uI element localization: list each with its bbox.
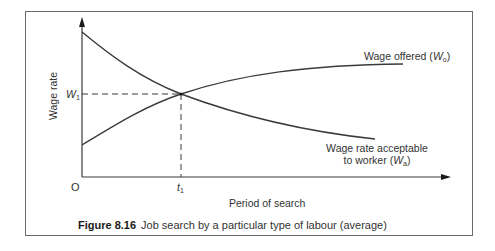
w1-symbol: W [66, 88, 76, 100]
wage-acceptable-symbol: W [393, 154, 403, 166]
chart-plot [0, 0, 495, 251]
w1-subscript: 1 [76, 94, 80, 101]
wage-offered-curve [82, 64, 403, 145]
wage-offered-text: Wage offered ( [364, 50, 433, 62]
intersection-point [179, 92, 182, 95]
figure-caption: Figure 8.16Job search by a particular ty… [78, 219, 387, 231]
t1-subscript: 1 [180, 187, 184, 194]
wage-acceptable-close: ) [407, 154, 411, 166]
wage-offered-symbol: W [433, 50, 443, 62]
wage-acceptable-curve [82, 32, 375, 139]
w1-marker-label: W1 [66, 88, 80, 104]
x-axis-label: Period of search [229, 197, 305, 209]
wage-acceptable-label: Wage rate acceptable to worker (Wa) [324, 142, 430, 170]
wage-offered-label: Wage offered (Wo) [364, 50, 450, 66]
figure-number: Figure 8.16 [78, 219, 136, 231]
wage-acceptable-line1: Wage rate acceptable [324, 142, 430, 154]
wage-acceptable-text: to worker ( [344, 154, 394, 166]
figure-caption-text: Job search by a particular type of labou… [141, 219, 387, 231]
y-axis-arrow-icon [79, 17, 85, 27]
origin-label: O [71, 181, 80, 193]
t1-marker-label: t1 [177, 181, 184, 197]
wage-acceptable-line2: to worker (Wa) [324, 154, 430, 170]
x-axis-arrow-icon [441, 174, 451, 180]
figure: Wage rate W1 O t1 Period of search Wage … [0, 0, 495, 251]
y-axis-label: Wage rate [47, 72, 59, 120]
wage-offered-close: ) [447, 50, 451, 62]
